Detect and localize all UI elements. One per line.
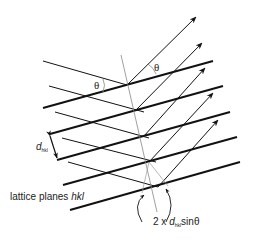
d-hkl-label: dhkl [36, 141, 48, 153]
bragg-diagram [0, 0, 254, 241]
incident-rays [43, 61, 158, 187]
reflected-rays [127, 17, 218, 187]
lattice-planes-label: lattice planes hkl [10, 191, 84, 202]
theta-label-reflected: θ [154, 61, 159, 73]
path-difference-label: 2 x dhklsinθ [153, 216, 199, 228]
d-spacing-arrow [50, 136, 57, 158]
path-arrow-left [137, 195, 144, 222]
theta-label-incident: θ [94, 79, 99, 91]
